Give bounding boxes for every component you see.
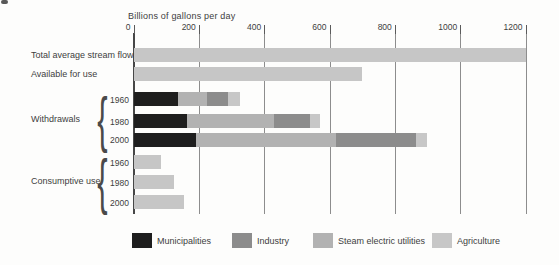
legend-item-municipalities: Municipalities <box>132 233 211 248</box>
legend-label-municipalities: Municipalities <box>157 236 211 246</box>
legend-label-agriculture: Agriculture <box>457 236 500 246</box>
legend-item-steam-electric: Steam electric utilities <box>313 233 425 248</box>
row-labels-layer: Total average stream flowAvailable for u… <box>0 0 559 265</box>
agriculture-swatch <box>432 233 452 248</box>
row-label: Available for use <box>31 69 97 79</box>
group-label-consumptive-use: Consumptive use <box>31 176 101 186</box>
row-label: Total average stream flow <box>31 50 134 60</box>
row-label-year: 1960 <box>89 158 129 168</box>
industry-swatch <box>232 233 252 248</box>
water-use-bar-chart: Billions of gallons per day 020040060080… <box>0 0 559 265</box>
row-label-year: 1980 <box>89 117 129 127</box>
legend-label-steam-electric: Steam electric utilities <box>338 236 425 246</box>
consumptive-use-brace: { <box>97 150 107 212</box>
legend-item-industry: Industry <box>232 233 289 248</box>
legend-item-agriculture: Agriculture <box>432 233 500 248</box>
withdrawals-brace: { <box>97 88 107 150</box>
row-label-year: 2000 <box>89 135 129 145</box>
group-label-withdrawals: Withdrawals <box>31 114 80 124</box>
municipalities-swatch <box>132 233 152 248</box>
steam-electric-swatch <box>313 233 333 248</box>
legend: Municipalities Industry Steam electric u… <box>0 233 559 253</box>
legend-label-industry: Industry <box>257 236 289 246</box>
row-label-year: 1960 <box>89 95 129 105</box>
row-label-year: 2000 <box>89 198 129 208</box>
